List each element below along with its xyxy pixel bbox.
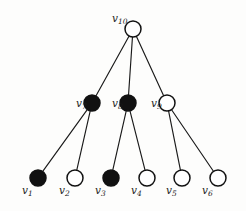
graph-node-label-v4: v4 [131, 184, 142, 198]
graph-node-label-v6: v6 [202, 184, 213, 198]
graph-canvas: v1v2v3v4v5v6v7v8v9v10 [0, 0, 246, 211]
graph-node-label-v2: v2 [59, 184, 70, 198]
graph-edge-v7-v2 [77, 110, 91, 170]
graph-node-v4 [139, 170, 155, 186]
graph-node-label-v1: v1 [22, 184, 33, 198]
graph-node-v2 [67, 170, 83, 186]
graph-edge-v8-v3 [113, 110, 127, 170]
graph-edge-v10-v9 [136, 36, 164, 96]
graph-edge-v10-v8 [129, 36, 133, 95]
graph-node-v6 [210, 170, 226, 186]
graph-edge-v8-v4 [130, 110, 145, 170]
graph-edge-v10-v7 [96, 36, 130, 97]
graph-node-label-v10: v10 [112, 12, 128, 26]
graph-node-v5 [174, 170, 190, 186]
graph-edge-v9-v6 [171, 109, 214, 172]
graph-diagram: v1v2v3v4v5v6v7v8v9v10 [0, 0, 246, 211]
graph-node-label-v5: v5 [166, 184, 177, 198]
graph-edge-v7-v1 [42, 109, 87, 172]
nodes-layer [30, 21, 226, 186]
graph-node-v3 [103, 170, 119, 186]
graph-node-v1 [30, 170, 46, 186]
graph-node-label-v3: v3 [95, 184, 106, 198]
